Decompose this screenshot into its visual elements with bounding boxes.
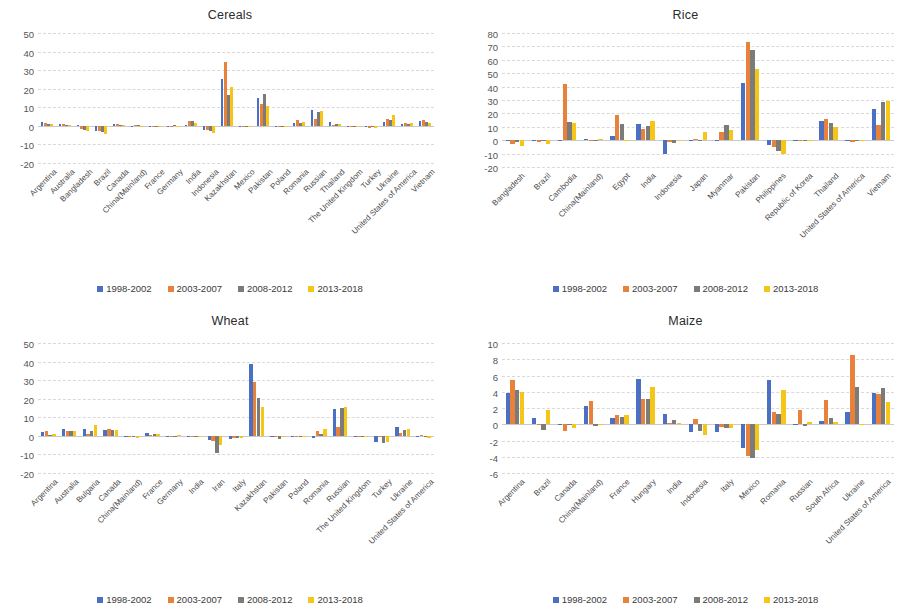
- bars: [502, 343, 528, 473]
- bar-romania-2008-2012: [776, 414, 780, 425]
- legend-item-2003-2007[interactable]: 2003-2007: [623, 594, 677, 605]
- bar-group-canada: [110, 33, 128, 163]
- y-axis-tick-label: 50: [487, 69, 498, 80]
- bar-group-india: [659, 343, 685, 473]
- legend-swatch-icon: [238, 286, 244, 292]
- x-axis-label-india: India: [639, 172, 657, 190]
- bars: [218, 33, 236, 163]
- legend-item-1998-2002[interactable]: 1998-2002: [553, 594, 607, 605]
- bar-france-2013-2018: [624, 415, 628, 425]
- bar-china-mainland-1998-2002: [584, 406, 588, 425]
- bar-group-the-united-kingdom: [351, 343, 372, 473]
- bar-indonesia-2013-2018: [703, 424, 707, 435]
- bar-russian-2013-2018: [320, 111, 323, 125]
- bar-cambodia-1998-2002: [558, 140, 562, 141]
- legend-item-2013-2018[interactable]: 2013-2018: [764, 594, 818, 605]
- bar-italy-1998-2002: [715, 424, 719, 431]
- bars: [59, 343, 80, 473]
- x-axis-label-france: France: [608, 478, 631, 501]
- bars: [205, 343, 226, 473]
- bars: [502, 33, 528, 167]
- bar-brazil-1998-2002: [532, 418, 536, 425]
- legend-label: 2003-2007: [632, 594, 677, 605]
- bars: [236, 33, 254, 163]
- bar-india-2003-2007: [641, 129, 645, 140]
- bar-turkey-2013-2018: [374, 126, 377, 129]
- y-axis-tick-label: -20: [20, 159, 34, 170]
- bar-south-africa-2013-2018: [833, 422, 837, 424]
- bar-group-france: [607, 343, 633, 473]
- bar-group-romania: [763, 343, 789, 473]
- bar-the-united-kingdom-2013-2018: [365, 436, 368, 437]
- legend-label: 1998-2002: [106, 283, 151, 294]
- bars: [528, 33, 554, 167]
- bar-united-states-of-america-1998-2002: [872, 393, 876, 424]
- legend-item-1998-2002[interactable]: 1998-2002: [97, 594, 151, 605]
- bar-group-france: [142, 343, 163, 473]
- legend-item-1998-2002[interactable]: 1998-2002: [97, 283, 151, 294]
- bar-group-turkey: [362, 33, 380, 163]
- bar-group-canada: [554, 343, 580, 473]
- bar-romania-2013-2018: [781, 390, 785, 424]
- legend-item-2003-2007[interactable]: 2003-2007: [168, 283, 222, 294]
- y-axis-tick-label: 40: [23, 357, 34, 368]
- bar-china-mainland-1998-2002: [584, 139, 588, 140]
- legend-item-2013-2018[interactable]: 2013-2018: [764, 283, 818, 294]
- bar-ukraine-2008-2012: [855, 387, 859, 424]
- bars: [842, 343, 868, 473]
- legend-item-2008-2012[interactable]: 2008-2012: [694, 283, 748, 294]
- bar-china-mainland-2013-2018: [136, 436, 139, 438]
- bars: [711, 33, 737, 167]
- bar-brazil-2013-2018: [546, 140, 550, 144]
- bar-republic-of-korea-2013-2018: [807, 140, 811, 141]
- bar-canada-2008-2012: [567, 424, 571, 425]
- y-axis-tick-label: 20: [487, 109, 498, 120]
- bar-south-africa-2003-2007: [824, 400, 828, 424]
- bar-poland-2013-2018: [284, 126, 287, 127]
- legend-swatch-icon: [553, 597, 559, 603]
- bars: [711, 343, 737, 473]
- bars: [267, 343, 288, 473]
- bar-hungary-1998-2002: [636, 379, 640, 425]
- bars: [246, 343, 267, 473]
- bar-hungary-2013-2018: [650, 387, 654, 424]
- chart-panel-maize: Maize 1086420-2-4-6 ArgentinaBrazilCanad…: [460, 306, 911, 612]
- legend-rice: 1998-20022003-20072008-20122013-2018: [460, 283, 911, 294]
- bars: [80, 343, 101, 473]
- gridline--6: -6: [502, 473, 894, 474]
- charts-grid: Cereals 50403020100-10-20 ArgentinaAustr…: [0, 0, 911, 612]
- legend-item-2013-2018[interactable]: 2013-2018: [308, 594, 362, 605]
- bar-canada-2013-2018: [115, 430, 118, 436]
- legend-item-2003-2007[interactable]: 2003-2007: [168, 594, 222, 605]
- bar-india-2003-2007: [667, 423, 671, 424]
- legend-item-2003-2007[interactable]: 2003-2007: [623, 283, 677, 294]
- bar-china-mainland-2003-2007: [589, 140, 593, 141]
- y-axis-tick-label: -4: [490, 452, 498, 463]
- legend-swatch-icon: [764, 286, 770, 292]
- bars: [528, 343, 554, 473]
- bar-france-2003-2007: [615, 415, 619, 424]
- bar-groups: [38, 343, 434, 473]
- bars: [92, 33, 110, 163]
- bar-russian-2008-2012: [803, 424, 807, 426]
- legend-item-2008-2012[interactable]: 2008-2012: [238, 594, 292, 605]
- bar-group-china-mainland: [128, 33, 146, 163]
- bar-group-russian: [790, 343, 816, 473]
- bar-group-ukraine: [842, 343, 868, 473]
- y-axis-tick-label: 20: [23, 394, 34, 405]
- bar-mexico-2003-2007: [746, 424, 750, 456]
- bars: [38, 33, 56, 163]
- bar-hungary-2008-2012: [646, 399, 650, 424]
- legend-item-2008-2012[interactable]: 2008-2012: [694, 594, 748, 605]
- bar-romania-1998-2002: [767, 380, 771, 424]
- legend-item-2013-2018[interactable]: 2013-2018: [308, 283, 362, 294]
- y-axis-tick-label: 0: [29, 121, 34, 132]
- legend-item-2008-2012[interactable]: 2008-2012: [238, 283, 292, 294]
- bar-group-india: [182, 33, 200, 163]
- bar-brazil-2008-2012: [541, 424, 545, 430]
- bars: [842, 33, 868, 167]
- bar-india-2013-2018: [650, 121, 654, 140]
- legend-item-1998-2002[interactable]: 1998-2002: [553, 283, 607, 294]
- bar-germany-2013-2018: [176, 126, 179, 127]
- bar-ukraine-1998-2002: [845, 412, 849, 424]
